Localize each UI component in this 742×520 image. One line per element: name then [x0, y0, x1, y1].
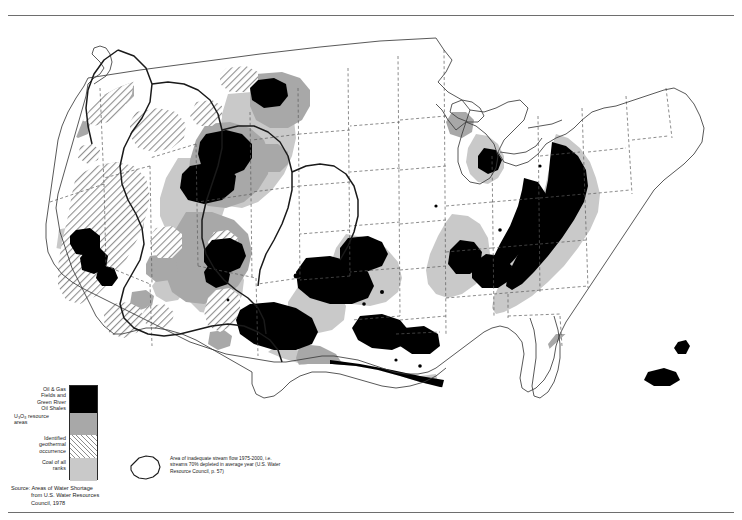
legend-swatch-geothermal: [70, 435, 97, 458]
water-shortage-key-line-3: Resource Council, p. 57): [170, 469, 280, 475]
map-canvas: [0, 16, 742, 446]
legend-swatch-oil-gas: [70, 386, 97, 413]
legend-label-coal-line-2: ranks: [14, 465, 66, 471]
source-note-line-3: Council, 1978: [11, 500, 99, 507]
bottom-divider-rule: [8, 512, 734, 513]
legend-label-oil-gas: Oil & Gas Fields and Green River Oil Sha…: [14, 386, 66, 412]
source-note-line-2: from U.S. Water Resources: [11, 492, 99, 499]
legend-label-uranium: U₃O₈ resource areas: [14, 413, 66, 426]
source-note-line-1: Source: Areas of Water Shortage: [11, 485, 99, 492]
legend-swatch-uranium: [70, 413, 97, 435]
water-shortage-key: Area of inadequate stream flow 1975-2000…: [126, 452, 326, 492]
legend-label-coal: Coal of all ranks: [14, 459, 66, 472]
map-page: Oil & Gas Fields and Green River Oil Sha…: [0, 0, 742, 520]
water-shortage-outline-icon: [126, 454, 166, 482]
offshore-islands: [644, 340, 690, 386]
water-shortage-key-line-2: streams 70% depleted in average year (U.…: [170, 462, 280, 468]
legend-swatch-column: [69, 385, 98, 480]
legend-label-geothermal: Identified geothermal occurrence: [14, 435, 66, 454]
legend-label-oil-gas-line-4: Oil Shales: [14, 405, 66, 411]
us-thematic-map: [0, 16, 742, 446]
source-note: Source: Areas of Water Shortage from U.S…: [11, 485, 99, 507]
legend-label-geothermal-line-3: occurrence: [14, 448, 66, 454]
water-shortage-key-text: Area of inadequate stream flow 1975-2000…: [170, 456, 280, 475]
legend-label-uranium-line-2: areas: [14, 419, 66, 425]
legend-swatch-coal: [70, 458, 97, 481]
